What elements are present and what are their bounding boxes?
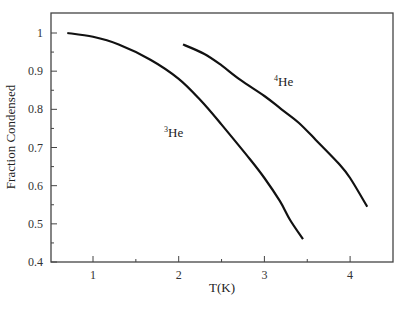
y-tick-label: 1	[37, 26, 43, 40]
y-tick-label: 0.5	[28, 217, 43, 231]
series-label-3he: 3He	[164, 125, 183, 140]
y-tick-label: 0.7	[28, 141, 43, 155]
y-tick-label: 0.4	[28, 255, 43, 269]
y-tick-label: 0.6	[28, 179, 43, 193]
x-tick-label: 1	[90, 268, 96, 282]
plot-frame	[51, 13, 393, 262]
y-axis-label: Fraction Condensed	[3, 84, 18, 189]
series-line-3he	[67, 33, 303, 239]
x-tick-label: 3	[261, 268, 267, 282]
y-tick-label: 0.9	[28, 64, 43, 78]
x-axis-ticks: 1234	[90, 256, 353, 282]
series-lines	[67, 33, 367, 239]
y-tick-label: 0.8	[28, 102, 43, 116]
y-axis-ticks: 0.40.50.60.70.80.91	[28, 26, 57, 269]
series-label-4he: 4He	[274, 74, 293, 89]
series-line-4he	[183, 45, 367, 207]
x-tick-label: 4	[347, 268, 353, 282]
chart: 0.40.50.60.70.80.91 1234 T(K) Fraction C…	[0, 0, 410, 309]
x-tick-label: 2	[176, 268, 182, 282]
x-axis-label: T(K)	[209, 280, 235, 295]
